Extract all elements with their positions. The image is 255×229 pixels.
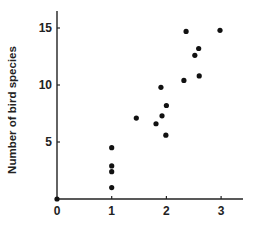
data-point [109, 169, 114, 174]
y-tick-label: 15 [39, 21, 53, 35]
data-point [109, 145, 114, 150]
data-point [164, 103, 169, 108]
data-point [217, 28, 222, 33]
y-tick-label: 5 [45, 135, 52, 149]
data-point [192, 53, 197, 58]
data-point [183, 29, 188, 34]
data-point [109, 163, 114, 168]
data-point [158, 85, 163, 90]
data-point [54, 196, 59, 201]
data-point [181, 78, 186, 83]
scatter-plot: 012351015 [0, 0, 255, 229]
data-point [109, 185, 114, 190]
data-point [196, 46, 201, 51]
x-tick-label: 0 [54, 204, 61, 218]
axes: 012351015 [39, 11, 243, 218]
data-point [197, 73, 202, 78]
x-tick-label: 1 [108, 204, 115, 218]
x-tick-label: 2 [163, 204, 170, 218]
data-point [153, 121, 158, 126]
y-tick-label: 10 [39, 78, 53, 92]
data-point [159, 113, 164, 118]
x-tick-label: 3 [218, 204, 225, 218]
data-point [134, 115, 139, 120]
data-points [54, 28, 222, 202]
data-point [163, 133, 168, 138]
